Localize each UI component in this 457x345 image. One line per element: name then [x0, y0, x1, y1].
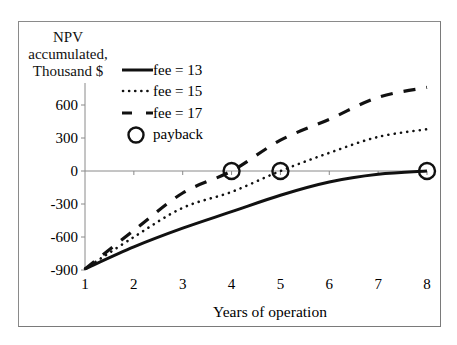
series-line-dotted — [85, 129, 427, 269]
legend-label: payback — [153, 126, 203, 142]
x-axis-title: Years of operation — [213, 303, 327, 320]
x-tick-label: 5 — [277, 276, 285, 292]
series-line-solid — [85, 171, 427, 269]
series-line-dashed — [85, 87, 427, 269]
chart-plot: 6003000-300-600-900 12345678 Years of op… — [0, 0, 457, 345]
circle-marker-icon — [129, 128, 144, 143]
x-tick-label: 7 — [374, 276, 382, 292]
x-tick-label: 2 — [130, 276, 138, 292]
legend-label: fee = 15 — [153, 83, 202, 99]
legend-item-fee-13: fee = 13 — [122, 62, 202, 78]
y-tick-label: -600 — [51, 229, 79, 245]
axes — [81, 83, 427, 270]
x-tick-label: 4 — [228, 276, 236, 292]
y-tick-marks — [81, 105, 85, 270]
y-tick-label: 600 — [56, 97, 79, 113]
legend: fee = 13 fee = 15 fee = 17 payback — [122, 62, 203, 143]
legend-label: fee = 13 — [153, 62, 202, 78]
y-tick-label: 300 — [56, 130, 79, 146]
series-lines — [85, 87, 427, 269]
y-tick-labels: 6003000-300-600-900 — [51, 97, 79, 278]
legend-item-fee-15: fee = 15 — [123, 83, 202, 99]
x-tick-label: 3 — [179, 276, 187, 292]
x-tick-label: 6 — [326, 276, 334, 292]
x-tick-labels: 12345678 — [81, 276, 431, 292]
legend-label: fee = 17 — [153, 105, 203, 121]
x-tick-label: 1 — [81, 276, 89, 292]
y-tick-label: -900 — [51, 262, 79, 278]
legend-item-payback: payback — [129, 126, 204, 143]
y-tick-label: 0 — [71, 163, 79, 179]
x-tick-label: 8 — [423, 276, 431, 292]
y-tick-label: -300 — [51, 196, 79, 212]
legend-item-fee-17: fee = 17 — [122, 105, 203, 121]
